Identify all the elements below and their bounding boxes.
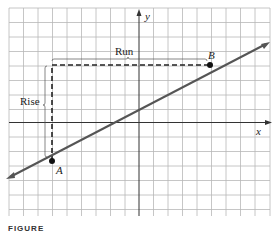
y-axis-arrow-icon [137, 9, 142, 16]
rise-run-dashes [52, 65, 210, 161]
y-axis-label: y [145, 11, 150, 22]
point-a-label: A [56, 165, 63, 176]
x-axis-label: x [256, 126, 261, 137]
figure-caption: FIGURE [8, 224, 44, 231]
line-arrow-left-icon [6, 172, 15, 179]
rise-label: Rise [20, 96, 40, 107]
axes [9, 9, 272, 216]
point-a-marker [49, 158, 55, 164]
run-label: Run [115, 46, 133, 57]
point-b-label: B [208, 50, 215, 61]
line-through-a-b [10, 44, 266, 177]
line-arrow-right-icon [261, 42, 270, 49]
point-b-marker [207, 62, 213, 68]
coordinate-plane [0, 0, 273, 231]
x-axis-arrow-icon [265, 120, 272, 125]
